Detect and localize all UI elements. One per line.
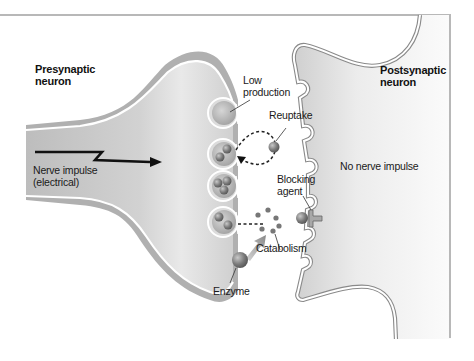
blocking-agent-label: Blocking agent <box>277 173 315 197</box>
vesicle-3 <box>208 171 238 201</box>
low-production-label: Low production <box>243 74 290 98</box>
reuptake-molecule <box>269 142 280 153</box>
synapse-diagram: Presynaptic neuron Postsynaptic neuron L… <box>0 0 474 361</box>
presynaptic-label: Presynaptic neuron <box>35 63 95 87</box>
no-nerve-impulse-label: No nerve impulse <box>340 160 419 172</box>
reuptake-label: Reuptake <box>269 109 312 121</box>
nerve-impulse-label: Nerve impulse (electrical) <box>33 164 98 188</box>
catabolism-label: Catabolism <box>256 242 307 254</box>
reuptake-path <box>236 128 286 164</box>
enzyme-label: Enzyme <box>213 285 250 297</box>
vesicle-4 <box>208 207 238 237</box>
postsynaptic-label: Postsynaptic neuron <box>380 64 446 88</box>
vesicle-2 <box>208 139 238 169</box>
vesicle-1 <box>208 98 238 128</box>
